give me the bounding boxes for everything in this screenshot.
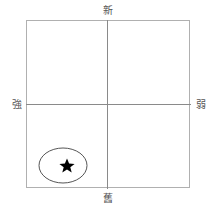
star-icon (59, 159, 74, 173)
highlight-layer (0, 0, 215, 215)
